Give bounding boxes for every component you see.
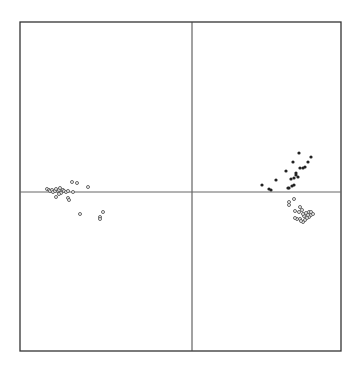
data-point bbox=[76, 182, 79, 185]
data-point bbox=[102, 211, 105, 214]
data-point bbox=[301, 166, 304, 169]
right-upper-cluster-series bbox=[260, 151, 312, 191]
data-point bbox=[79, 213, 82, 216]
data-point bbox=[72, 191, 75, 194]
data-point bbox=[284, 169, 287, 172]
data-point bbox=[300, 220, 303, 223]
data-point bbox=[312, 213, 315, 216]
data-point bbox=[298, 211, 301, 214]
data-point bbox=[298, 166, 301, 169]
data-point bbox=[309, 155, 312, 158]
data-point bbox=[274, 178, 277, 181]
data-point bbox=[292, 176, 295, 179]
data-point bbox=[301, 209, 304, 212]
data-point bbox=[55, 196, 58, 199]
data-point bbox=[71, 181, 74, 184]
data-point bbox=[294, 217, 297, 220]
data-point bbox=[260, 183, 263, 186]
left-cluster-series bbox=[46, 181, 105, 221]
data-point bbox=[293, 198, 296, 201]
data-point bbox=[99, 218, 102, 221]
data-point bbox=[68, 199, 71, 202]
data-point bbox=[294, 173, 297, 176]
data-point bbox=[289, 177, 292, 180]
scatter-plot bbox=[0, 0, 359, 368]
data-point bbox=[294, 210, 297, 213]
data-point bbox=[269, 188, 272, 191]
data-point bbox=[58, 193, 61, 196]
data-point bbox=[286, 186, 289, 189]
data-point bbox=[299, 206, 302, 209]
data-point bbox=[59, 187, 62, 190]
data-point bbox=[307, 214, 310, 217]
data-points bbox=[46, 151, 315, 223]
data-point bbox=[297, 151, 300, 154]
data-point bbox=[67, 190, 70, 193]
data-point bbox=[288, 204, 291, 207]
data-point bbox=[306, 160, 309, 163]
data-point bbox=[292, 183, 295, 186]
data-point bbox=[87, 186, 90, 189]
data-point bbox=[302, 213, 305, 216]
right-lower-cluster-series bbox=[288, 198, 315, 224]
data-point bbox=[291, 160, 294, 163]
